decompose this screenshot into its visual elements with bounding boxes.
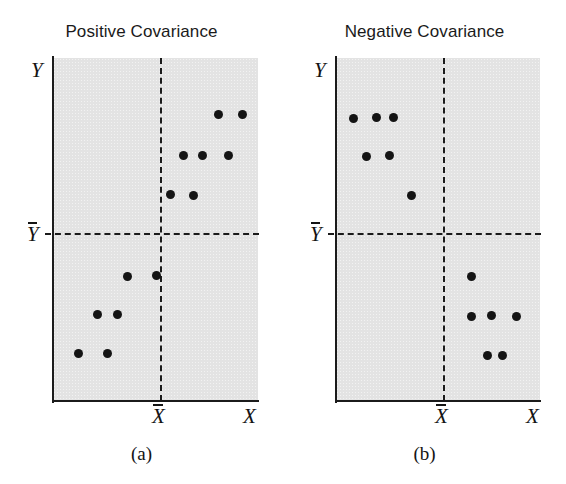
data-point (123, 272, 132, 281)
data-point (198, 151, 207, 160)
data-point (103, 349, 112, 358)
panel-a-y-mean-label: Y (27, 224, 39, 245)
panel-b-x-axis-label: X (526, 406, 539, 427)
data-point (467, 272, 476, 281)
panel-b-x-mean-line (443, 58, 445, 401)
data-point (362, 152, 371, 161)
data-point (166, 190, 175, 199)
panel-a-plot-area (53, 58, 258, 401)
data-point (238, 110, 247, 119)
data-point (498, 351, 507, 360)
panel-b-x-mean-label: X (435, 406, 448, 427)
panel-b-x-axis-line (335, 400, 541, 402)
panel-a-x-axis-label: X (243, 406, 256, 427)
panel-b-y-axis-label: Y (314, 60, 326, 81)
panel-b-title: Negative Covariance (283, 22, 566, 42)
panel-b-y-mean-line (328, 233, 541, 235)
panel-a-y-mean-line (45, 233, 259, 235)
panel-b-y-axis-line (335, 56, 337, 403)
data-point (74, 349, 83, 358)
panel-a-x-axis-line (52, 400, 259, 402)
panel-a-y-axis-line (52, 56, 54, 403)
data-point (349, 114, 358, 123)
data-point (93, 310, 102, 319)
panel-a-x-mean-label: X (152, 406, 165, 427)
panel-a-x-mean-line (160, 58, 162, 401)
panel-positive-covariance: Positive Covariance Y Y X X (a) (0, 0, 283, 484)
data-point (467, 312, 476, 321)
data-point (179, 151, 188, 160)
data-point (214, 110, 223, 119)
data-point (389, 113, 398, 122)
data-point (372, 113, 381, 122)
data-point (483, 351, 492, 360)
data-point (385, 151, 394, 160)
data-point (512, 312, 521, 321)
panel-a-title: Positive Covariance (0, 22, 283, 42)
covariance-figure: Positive Covariance Y Y X X (a) Negative… (0, 0, 566, 484)
data-point (113, 310, 122, 319)
data-point (152, 271, 161, 280)
data-point (487, 311, 496, 320)
panel-b-y-mean-label: Y (310, 224, 322, 245)
data-point (189, 191, 198, 200)
panel-b-plot-area (336, 58, 540, 401)
panel-b-caption: (b) (283, 443, 566, 465)
data-point (224, 151, 233, 160)
data-point (407, 191, 416, 200)
panel-a-y-axis-label: Y (31, 60, 43, 81)
panel-a-caption: (a) (0, 443, 283, 465)
